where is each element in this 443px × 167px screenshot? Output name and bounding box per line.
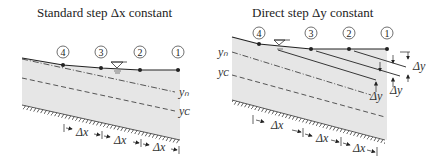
station-label-3: 3 bbox=[99, 47, 104, 58]
station-labels: 4 3 2 1 bbox=[57, 46, 184, 58]
station-labels: 4 3 2 1 bbox=[253, 27, 393, 39]
dy-label-1: Δy bbox=[412, 59, 426, 73]
station-label-2: 2 bbox=[138, 47, 143, 58]
standard-step-panel: Standard step Δx constant 4 bbox=[22, 5, 190, 154]
dx-label-3: Δx bbox=[352, 141, 366, 155]
dx-label-3: Δx bbox=[152, 140, 166, 154]
dx-label-1: Δx bbox=[75, 125, 89, 139]
station-label-1: 1 bbox=[385, 28, 390, 39]
station-label-3: 3 bbox=[309, 28, 314, 39]
dy-label-2: Δy bbox=[389, 83, 403, 97]
station-label-4: 4 bbox=[61, 47, 66, 58]
standard-step-title: Standard step Δx constant bbox=[37, 5, 172, 20]
water-body bbox=[232, 37, 387, 140]
critical-depth-label: yᴄ bbox=[178, 104, 190, 118]
dx-label-2: Δx bbox=[113, 133, 127, 147]
dy-label-3: Δy bbox=[369, 89, 383, 103]
direct-step-panel: Direct step Δy constant bbox=[217, 5, 426, 156]
dx-label-1: Δx bbox=[270, 118, 284, 132]
critical-depth-label: yᴄ bbox=[217, 65, 229, 79]
station-label-4: 4 bbox=[257, 28, 262, 39]
normal-depth-label: yₙ bbox=[178, 85, 189, 99]
station-label-2: 2 bbox=[347, 28, 352, 39]
gvf-step-methods-diagram: Standard step Δx constant 4 bbox=[0, 0, 443, 167]
normal-depth-label: yₙ bbox=[217, 45, 228, 59]
station-label-1: 1 bbox=[176, 47, 181, 58]
direct-step-title: Direct step Δy constant bbox=[252, 5, 374, 20]
dx-label-2: Δx bbox=[315, 131, 329, 145]
